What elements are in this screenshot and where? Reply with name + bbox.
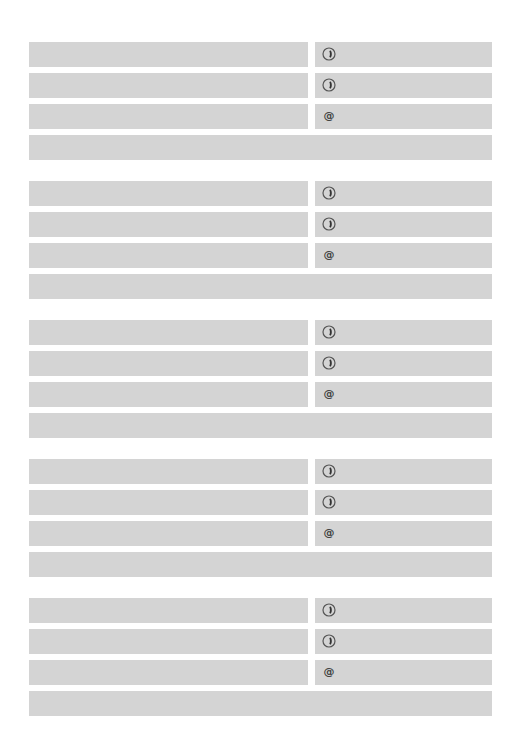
phone-field[interactable] — [315, 629, 492, 654]
form-row — [29, 490, 492, 515]
email-field[interactable]: @ — [315, 660, 492, 685]
contact-group-2: @ — [29, 181, 492, 300]
phone-icon — [322, 603, 336, 617]
phone-icon — [322, 464, 336, 478]
phone-icon — [322, 186, 336, 200]
phone-field[interactable] — [315, 73, 492, 98]
email-field[interactable]: @ — [315, 521, 492, 546]
form-row — [29, 351, 492, 376]
form-row — [29, 629, 492, 654]
form-row — [29, 274, 492, 299]
phone-field[interactable] — [315, 459, 492, 484]
phone-field[interactable] — [315, 598, 492, 623]
phone-icon — [322, 356, 336, 370]
at-icon: @ — [322, 665, 336, 679]
name-field[interactable] — [29, 629, 308, 654]
name-field[interactable] — [29, 104, 308, 129]
name-field[interactable] — [29, 351, 308, 376]
name-field[interactable] — [29, 521, 308, 546]
form-row: @ — [29, 243, 492, 268]
email-field[interactable]: @ — [315, 243, 492, 268]
notes-field[interactable] — [29, 135, 492, 160]
at-icon: @ — [322, 109, 336, 123]
phone-field[interactable] — [315, 212, 492, 237]
name-field[interactable] — [29, 490, 308, 515]
name-field[interactable] — [29, 459, 308, 484]
phone-field[interactable] — [315, 490, 492, 515]
name-field[interactable] — [29, 181, 308, 206]
contact-group-5: @ — [29, 598, 492, 717]
name-field[interactable] — [29, 243, 308, 268]
name-field[interactable] — [29, 320, 308, 345]
form-row: @ — [29, 660, 492, 685]
form-row — [29, 42, 492, 67]
phone-icon — [322, 47, 336, 61]
form-row — [29, 320, 492, 345]
at-icon: @ — [322, 248, 336, 262]
form-row — [29, 212, 492, 237]
form-row: @ — [29, 104, 492, 129]
name-field[interactable] — [29, 598, 308, 623]
at-icon: @ — [322, 387, 336, 401]
name-field[interactable] — [29, 382, 308, 407]
contact-group-1: @ — [29, 42, 492, 161]
phone-field[interactable] — [315, 181, 492, 206]
phone-field[interactable] — [315, 351, 492, 376]
notes-field[interactable] — [29, 552, 492, 577]
form-row — [29, 459, 492, 484]
form-row — [29, 691, 492, 716]
form-row — [29, 598, 492, 623]
email-field[interactable]: @ — [315, 382, 492, 407]
phone-icon — [322, 634, 336, 648]
name-field[interactable] — [29, 73, 308, 98]
notes-field[interactable] — [29, 274, 492, 299]
phone-field[interactable] — [315, 42, 492, 67]
phone-icon — [322, 217, 336, 231]
contact-group-4: @ — [29, 459, 492, 578]
phone-icon — [322, 78, 336, 92]
notes-field[interactable] — [29, 691, 492, 716]
at-icon: @ — [322, 526, 336, 540]
form-row — [29, 413, 492, 438]
form-row: @ — [29, 382, 492, 407]
notes-field[interactable] — [29, 413, 492, 438]
form-row — [29, 181, 492, 206]
form-row — [29, 73, 492, 98]
phone-field[interactable] — [315, 320, 492, 345]
form-row — [29, 552, 492, 577]
phone-icon — [322, 325, 336, 339]
email-field[interactable]: @ — [315, 104, 492, 129]
form-row: @ — [29, 521, 492, 546]
name-field[interactable] — [29, 212, 308, 237]
contact-group-3: @ — [29, 320, 492, 439]
name-field[interactable] — [29, 660, 308, 685]
phone-icon — [322, 495, 336, 509]
form-row — [29, 135, 492, 160]
name-field[interactable] — [29, 42, 308, 67]
